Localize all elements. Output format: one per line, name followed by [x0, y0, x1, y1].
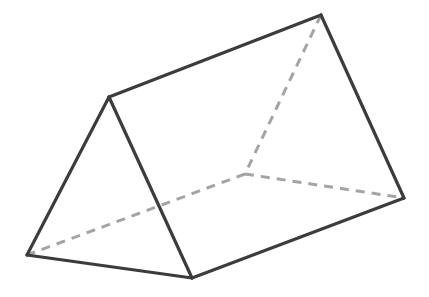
triangular-prism-diagram — [0, 0, 429, 297]
